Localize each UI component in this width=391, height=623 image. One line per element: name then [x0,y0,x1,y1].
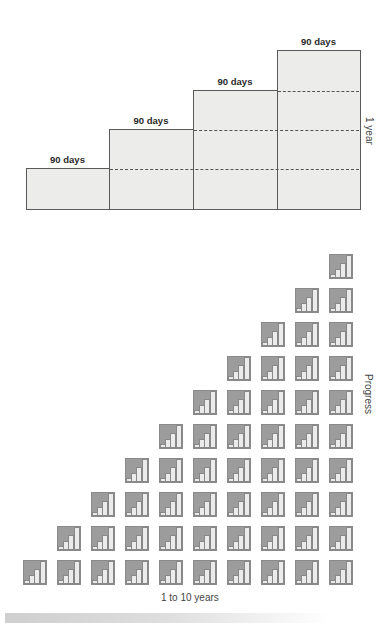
progress-tile-icon [91,492,115,517]
progress-tile-icon [227,390,251,415]
dashed-level-line [110,169,359,170]
step-label-2: 90 days [109,115,193,126]
progress-tile-icon [193,390,217,415]
tile-bar [346,493,352,516]
tile-bar [278,561,284,584]
progress-tile-icon [295,458,319,483]
progress-tile-icon [261,560,285,585]
progress-tile-icon [193,560,217,585]
tile-bar [40,561,46,584]
progress-axis-label: Progress [363,374,374,414]
tile-bar [278,425,284,448]
tile-bar [312,527,318,550]
progress-tile-icon [227,560,251,585]
tile-bar [176,425,182,448]
progress-tile-icon [57,560,81,585]
tile-bar [176,561,182,584]
tile-bar [142,527,148,550]
step-label-1: 90 days [26,154,109,165]
progress-tile-icon [329,458,353,483]
progress-tile-icon [193,424,217,449]
tile-bar [210,561,216,584]
progress-tile-icon [57,526,81,551]
tile-bar [244,561,250,584]
tile-bar [346,459,352,482]
tile-bar [278,493,284,516]
progress-tile-icon [91,526,115,551]
years-axis-label: 1 to 10 years [161,592,219,603]
progress-tile-icon [295,424,319,449]
tile-bar [312,323,318,346]
progress-tile-icon [261,390,285,415]
tile-bar [346,289,352,312]
tile-bar [210,493,216,516]
progress-tile-icon [295,492,319,517]
tile-bar [278,357,284,380]
progress-tile-icon [193,492,217,517]
step-label-4: 90 days [277,36,360,47]
progress-tile-icon [261,424,285,449]
progress-tile-icon [329,254,353,279]
tile-bar [142,459,148,482]
progress-tile-icon [193,458,217,483]
progress-tile-icon [159,458,183,483]
tile-bar [312,493,318,516]
progress-tile-icon [227,526,251,551]
tile-bar [346,527,352,550]
progress-tile-icon [295,560,319,585]
progress-tile-icon [227,458,251,483]
step-box-1 [26,168,110,210]
tile-bar [210,459,216,482]
progress-tile-icon [227,492,251,517]
progress-tile-icon [295,322,319,347]
progress-tile-icon [159,560,183,585]
progress-tile-icon [125,526,149,551]
progress-tile-icon [329,356,353,381]
tile-bar [244,459,250,482]
progress-tile-icon [295,390,319,415]
tile-bar [210,425,216,448]
tile-bar [210,527,216,550]
tile-bar [244,357,250,380]
tile-bar [346,425,352,448]
progress-tile-icon [125,458,149,483]
tile-bar [346,357,352,380]
tile-bar [278,527,284,550]
progress-tile-icon [329,390,353,415]
progress-tile-icon [261,322,285,347]
tile-bar [244,527,250,550]
tile-bar [244,493,250,516]
progress-tile-icon [261,492,285,517]
progress-tile-icon [329,492,353,517]
progress-tile-icon [329,424,353,449]
tile-bar [210,391,216,414]
tile-bar [176,459,182,482]
tile-bar [346,255,352,278]
dashed-level-line [194,130,359,131]
progress-tile-icon [159,424,183,449]
progress-tile-icon [261,356,285,381]
progress-tile-icon [159,492,183,517]
tile-bar [176,493,182,516]
dashed-level-line [278,91,359,92]
one-year-label: 1 year [364,117,375,145]
tile-bar [346,391,352,414]
progress-tile-icon [261,526,285,551]
progress-tile-icon [91,560,115,585]
tile-bar [278,459,284,482]
tile-bar [312,357,318,380]
progress-tile-icon [23,560,47,585]
progress-tile-icon [125,492,149,517]
progress-tile-icon [227,424,251,449]
progress-tile-icon [159,526,183,551]
progress-tile-icon [329,560,353,585]
tile-bar [74,561,80,584]
tile-bar [312,289,318,312]
tile-bar [278,323,284,346]
tile-bar [108,493,114,516]
progress-tile-icon [193,526,217,551]
tile-bar [142,561,148,584]
progress-tile-icon [295,288,319,313]
tile-bar [312,425,318,448]
tile-bar [74,527,80,550]
